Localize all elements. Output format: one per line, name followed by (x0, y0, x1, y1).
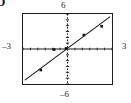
y-axis-min-label: –6 (60, 90, 69, 99)
data-point-marker (53, 48, 56, 51)
data-point-marker (83, 34, 86, 37)
x-axis-max-label: 3 (122, 42, 127, 51)
graph-screenshot: D 6 –6 –3 3 (0, 0, 131, 103)
data-point-marker (65, 47, 68, 50)
corner-label-glyph: D (0, 0, 8, 9)
data-points (40, 25, 103, 71)
plot-frame (22, 13, 113, 85)
x-axis-min-label: –3 (2, 42, 11, 51)
plot-canvas (23, 14, 112, 84)
data-point-marker (100, 25, 103, 28)
data-point-marker (40, 69, 43, 72)
y-axis-max-label: 6 (61, 1, 66, 10)
